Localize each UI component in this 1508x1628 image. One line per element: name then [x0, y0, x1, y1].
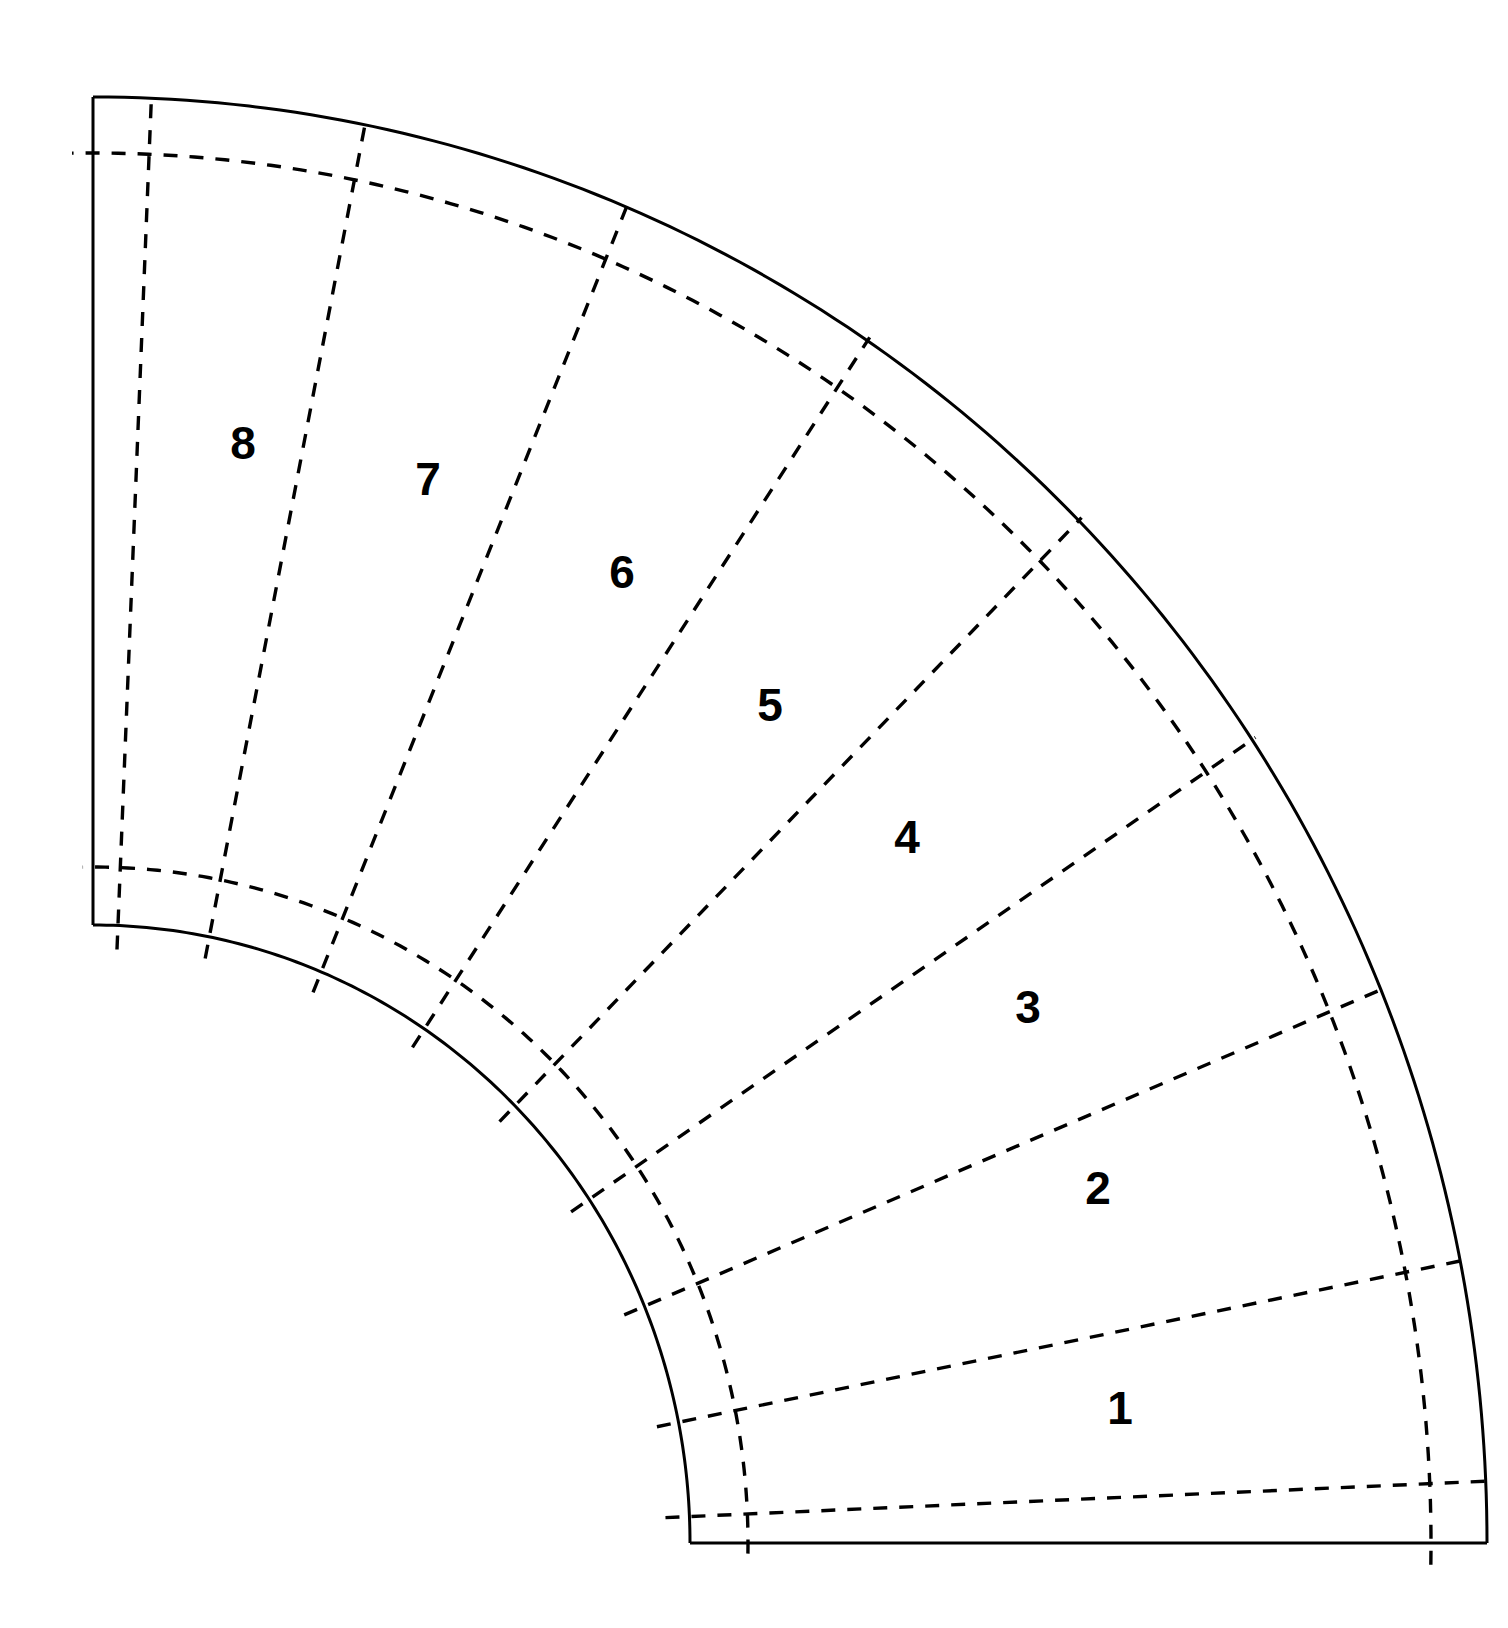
dashed-guide-layer: [72, 94, 1490, 1565]
segment-label-7: 7: [415, 453, 441, 505]
segment-label-3: 3: [1015, 981, 1041, 1033]
radial-divider-5: [412, 337, 869, 1047]
bottom-edge-offset-line: [665, 1481, 1489, 1518]
sector-diagram: 12345678: [0, 0, 1508, 1628]
dashed-inner-arc: [83, 867, 748, 1554]
segment-label-4: 4: [894, 811, 920, 863]
radial-divider-3: [571, 737, 1255, 1211]
diagram-canvas: 12345678: [0, 0, 1508, 1628]
radial-divider-2: [624, 988, 1384, 1315]
segment-label-1: 1: [1107, 1382, 1133, 1434]
segment-label-layer: 12345678: [230, 417, 1133, 1434]
radial-divider-7: [205, 121, 366, 959]
dashed-outer-arc: [72, 153, 1431, 1565]
radial-divider-4: [500, 518, 1082, 1122]
inner-arc: [93, 925, 690, 1543]
segment-label-5: 5: [757, 679, 783, 731]
radial-divider-1: [657, 1260, 1464, 1427]
segment-label-2: 2: [1085, 1162, 1111, 1214]
segment-label-8: 8: [230, 417, 256, 469]
segment-label-6: 6: [609, 546, 635, 598]
left-edge-offset-line: [117, 94, 152, 949]
radial-divider-6: [313, 203, 628, 992]
